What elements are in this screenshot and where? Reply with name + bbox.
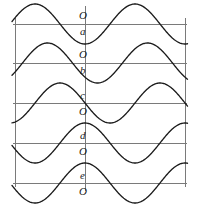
label-wave-c: c (80, 90, 85, 101)
label-wave-e: e (80, 170, 85, 181)
label-wave-a: a (80, 26, 86, 37)
label-wave-b: b (80, 65, 86, 76)
wave-diagram-svg (0, 0, 201, 217)
label-origin-d: O (79, 146, 87, 157)
label-wave-d: d (80, 130, 86, 141)
label-origin-a: O (79, 10, 87, 21)
label-origin-e: O (79, 186, 87, 197)
label-origin-c: O (79, 106, 87, 117)
wave-phase-figure: OaObcOdOeO (0, 0, 201, 217)
frame-lines (15, 6, 185, 191)
axis-lines (13, 24, 187, 183)
label-origin-b: O (79, 49, 87, 60)
